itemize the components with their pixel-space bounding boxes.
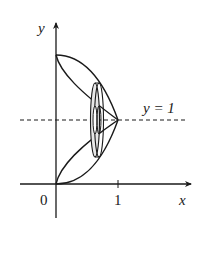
lower-outer-curve xyxy=(56,120,118,184)
diagram-canvas: y x 0 1 y = 1 xyxy=(0,0,205,270)
x-tick-label-1: 1 xyxy=(114,192,122,208)
upper-inner-curve xyxy=(56,55,118,120)
upper-outer-curve xyxy=(56,55,118,120)
x-axis-label: x xyxy=(178,192,186,208)
rotation-axis-label: y = 1 xyxy=(141,100,175,116)
y-axis-label: y xyxy=(36,20,45,36)
washer-slice xyxy=(91,83,104,157)
origin-label: 0 xyxy=(40,192,48,208)
lower-inner-curve xyxy=(56,120,118,184)
